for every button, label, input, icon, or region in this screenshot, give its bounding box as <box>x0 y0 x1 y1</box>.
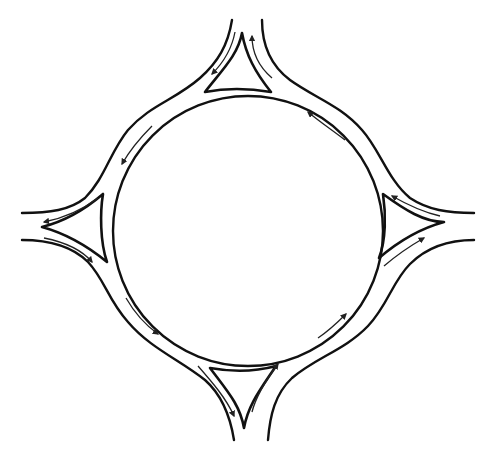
arrow-ring-se <box>318 314 346 338</box>
roundabout-diagram <box>0 0 497 461</box>
arrow-ring-ne <box>308 112 345 140</box>
arrow-east-entry <box>384 238 424 266</box>
central-island <box>113 96 383 366</box>
outer-roadway-edge <box>22 20 474 440</box>
